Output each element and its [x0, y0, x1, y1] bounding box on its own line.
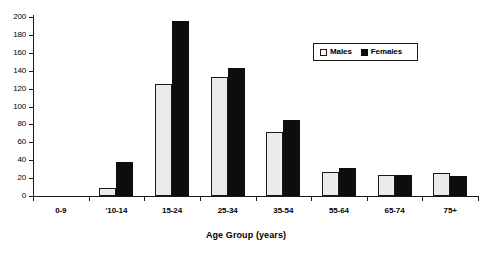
bar-females	[228, 68, 245, 196]
y-axis-tick-label: 120	[0, 85, 26, 93]
y-axis-tick	[29, 17, 33, 18]
y-axis-tick-label: 0	[0, 192, 26, 200]
y-axis-tick-label: 60	[0, 138, 26, 146]
x-axis-tick	[256, 196, 257, 201]
bar-females	[172, 21, 189, 196]
legend-swatch-males-icon	[320, 49, 327, 56]
legend-entry-males: Males	[320, 48, 352, 56]
x-axis-tick	[200, 196, 201, 201]
y-axis-tick	[29, 53, 33, 54]
bar-males	[433, 173, 450, 196]
x-axis-tick-label: '10-14	[89, 206, 145, 215]
x-axis-tick-label: 25-34	[200, 206, 256, 215]
x-axis-tick	[422, 196, 423, 201]
bar-males	[155, 84, 172, 196]
y-axis-tick-label: 40	[0, 156, 26, 164]
x-axis-tick-label: 15-24	[144, 206, 200, 215]
x-axis-tick	[367, 196, 368, 201]
x-axis-tick	[311, 196, 312, 201]
bar-males	[99, 188, 116, 196]
y-axis-tick-label: 160	[0, 49, 26, 57]
x-axis-tick-label: 75+	[422, 206, 478, 215]
bar-chart: 020406080100120140160180200 0-9'10-1415-…	[0, 0, 492, 255]
y-axis-tick	[29, 89, 33, 90]
legend: Males Females	[313, 43, 418, 61]
legend-label-females: Females	[371, 48, 402, 56]
y-axis-tick	[29, 124, 33, 125]
y-axis-tick-label: 140	[0, 67, 26, 75]
bar-males	[378, 175, 395, 196]
bar-males	[211, 77, 228, 196]
y-axis-tick-label: 20	[0, 174, 26, 182]
x-axis-tick	[33, 196, 34, 201]
bar-males	[322, 172, 339, 196]
y-axis-line	[33, 15, 34, 197]
legend-label-males: Males	[330, 48, 352, 56]
x-axis-tick	[478, 196, 479, 201]
y-axis-tick	[29, 160, 33, 161]
x-axis-tick-label: 0-9	[33, 206, 89, 215]
y-axis-tick	[29, 142, 33, 143]
y-axis-tick-label: 200	[0, 13, 26, 21]
x-axis-tick	[89, 196, 90, 201]
bar-females	[339, 168, 356, 196]
bar-females	[283, 120, 300, 196]
y-axis-tick-label: 180	[0, 31, 26, 39]
x-axis-tick-label: 65-74	[367, 206, 423, 215]
bar-males	[266, 132, 283, 196]
y-axis-tick	[29, 71, 33, 72]
y-axis-tick	[29, 107, 33, 108]
x-axis-tick-label: 55-64	[311, 206, 367, 215]
bar-females	[116, 162, 133, 196]
y-axis-tick	[29, 35, 33, 36]
y-axis-tick-label: 100	[0, 103, 26, 111]
y-axis-tick-label: 80	[0, 120, 26, 128]
bar-females	[450, 176, 467, 196]
x-axis-title: Age Group (years)	[0, 230, 492, 240]
y-axis-tick	[29, 178, 33, 179]
x-axis-tick-label: 35-54	[256, 206, 312, 215]
x-axis-tick	[144, 196, 145, 201]
bar-females	[395, 175, 412, 196]
legend-entry-females: Females	[361, 48, 402, 56]
legend-swatch-females-icon	[361, 49, 368, 56]
